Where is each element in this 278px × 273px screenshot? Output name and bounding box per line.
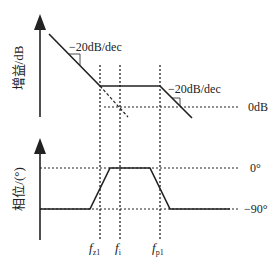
- fp1-label: fp1: [152, 240, 164, 257]
- phase-axis-arrow-icon: [34, 138, 46, 154]
- gain-asymptote-extension: [100, 86, 128, 117]
- bode-diagram: 增益/dB 0dB −20dB/dec −20dB/dec 相位/(°) 0° …: [0, 0, 278, 273]
- zero-degree-label: 0°: [250, 161, 261, 175]
- slope-label-left: −20dB/dec: [69, 40, 122, 54]
- phase-axis-label: 相位/(°): [11, 167, 26, 210]
- zero-db-label: 0dB: [248, 100, 268, 114]
- fz1-label: fz1: [89, 240, 100, 257]
- gain-axis-label: 增益/dB: [11, 45, 26, 90]
- phase-curve: [40, 168, 230, 209]
- slope-label-right: −20dB/dec: [168, 82, 221, 96]
- gain-axis-arrow-icon: [34, 14, 46, 30]
- frequency-labels: fz1 fi fp1: [89, 240, 164, 257]
- minus-90-degree-label: −90°: [244, 202, 268, 216]
- fi-label: fi: [115, 240, 122, 257]
- phase-plot: 相位/(°) 0° −90°: [11, 138, 268, 240]
- gain-plot: 增益/dB 0dB −20dB/dec −20dB/dec: [11, 14, 268, 240]
